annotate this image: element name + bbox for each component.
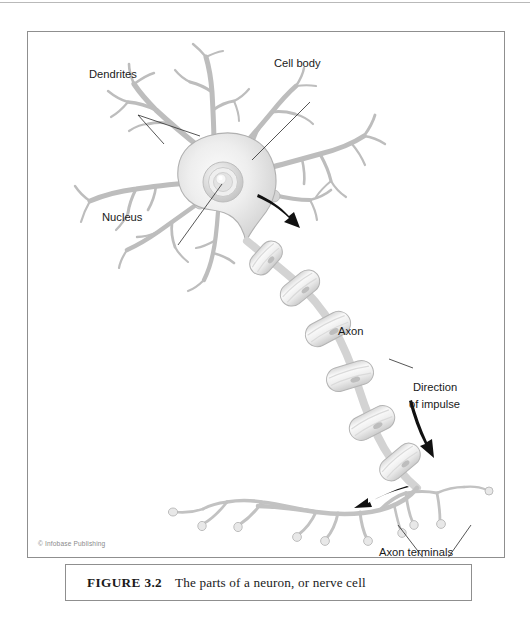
copyright-notice: © Infobase Publishing bbox=[38, 540, 105, 547]
figure-caption-box: FIGURE 3.2The parts of a neuron, or nerv… bbox=[65, 564, 472, 601]
label-direction-of-impulse-line2: of impulse bbox=[409, 398, 460, 410]
label-axon: Axon bbox=[338, 325, 364, 337]
label-cell-body: Cell body bbox=[274, 57, 321, 69]
nucleus bbox=[203, 162, 243, 202]
label-direction-of-impulse-line1: Direction bbox=[413, 381, 457, 393]
impulse-terminal-arrow bbox=[354, 486, 409, 508]
figure-caption: FIGURE 3.2The parts of a neuron, or nerv… bbox=[66, 575, 366, 591]
axon-terminal-knobs bbox=[168, 487, 493, 545]
leader-axon bbox=[389, 359, 413, 368]
label-axon-terminals: Axon terminals bbox=[379, 546, 453, 557]
figure-caption-text: The parts of a neuron, or nerve cell bbox=[175, 575, 366, 590]
axon-terminals-group bbox=[175, 487, 487, 539]
page-canvas: Dendrites Cell body Nucleus Axon Directi… bbox=[0, 0, 530, 619]
figure-caption-label: FIGURE 3.2 bbox=[87, 575, 162, 590]
label-dendrites: Dendrites bbox=[89, 68, 137, 80]
figure-frame: Dendrites Cell body Nucleus Axon Directi… bbox=[27, 31, 505, 558]
page-top-rule bbox=[0, 2, 530, 3]
neuron-diagram: Dendrites Cell body Nucleus Axon Directi… bbox=[28, 32, 504, 557]
label-nucleus: Nucleus bbox=[102, 211, 143, 223]
